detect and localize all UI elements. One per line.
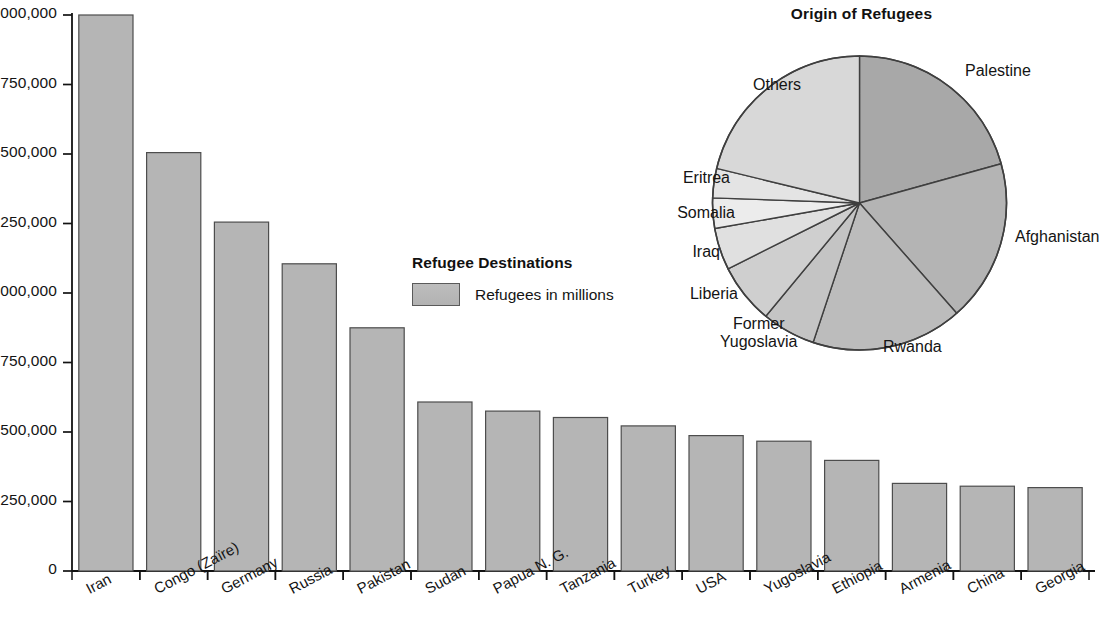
bar: [350, 328, 404, 571]
pie-slice-label: Somalia: [640, 204, 735, 222]
x-axis-category-label: Ethiopia: [829, 557, 885, 597]
pie-slice-label: Palestine: [965, 62, 1031, 80]
pie-slice-label: Others: [753, 76, 801, 94]
bar: [689, 436, 743, 571]
bar: [825, 460, 879, 571]
bar: [214, 222, 268, 571]
y-axis-tick-label: 750,000: [0, 352, 57, 370]
y-axis-tick-label: 250,000: [0, 491, 57, 509]
x-axis-category-label: Turkey: [625, 561, 673, 597]
legend-entry-label: Refugees in millions: [475, 286, 614, 304]
pie-slice-label-line: Yugoslavia: [720, 333, 797, 351]
bar: [757, 441, 811, 571]
pie-slice-label: Liberia: [640, 285, 738, 303]
pie-chart: Origin of Refugees PalestineAfghanistanR…: [640, 0, 1101, 400]
x-axis-category-label: China: [964, 564, 1007, 597]
x-axis-category-label: Yugoslavia: [761, 548, 833, 597]
x-axis-category-label: Iran: [83, 570, 114, 597]
bar: [892, 483, 946, 571]
pie-chart-canvas: [640, 0, 1101, 400]
y-axis-tick-label: 1,250,000: [0, 213, 57, 231]
legend-entry: Refugees in millions: [412, 283, 614, 306]
x-axis-category-label: Russia: [286, 560, 334, 597]
x-axis-category-label: USA: [693, 568, 728, 597]
y-axis-tick-label: 500,000: [0, 421, 57, 439]
legend-title: Refugee Destinations: [412, 254, 614, 272]
pie-slice-label: Rwanda: [883, 338, 942, 356]
bar-chart-legend: Refugee Destinations Refugees in million…: [412, 254, 614, 306]
y-axis-tick-label: 1,500,000: [0, 143, 57, 161]
refugee-figure: 2,000,0001,750,0001,500,0001,250,0001,00…: [0, 0, 1101, 631]
legend-swatch-icon: [412, 283, 460, 306]
x-axis-category-label: Sudan: [422, 562, 468, 597]
bar: [418, 402, 472, 571]
y-axis-tick-label: 1,750,000: [0, 74, 57, 92]
pie-slice-label-line: Former: [720, 315, 797, 333]
pie-slice-label: Eritrea: [640, 169, 730, 187]
y-axis-tick-label: 0: [48, 560, 57, 578]
bar: [486, 411, 540, 571]
x-axis-category-label: Armenia: [896, 556, 953, 597]
pie-slice-label: FormerYugoslavia: [720, 315, 797, 351]
bar: [282, 264, 336, 571]
y-axis-tick-label: 2,000,000: [0, 4, 57, 22]
bar: [79, 15, 133, 571]
y-axis-tick-label: 1,000,000: [0, 282, 57, 300]
x-axis-category-label: Papua N. G.: [490, 543, 571, 597]
bar: [960, 486, 1014, 571]
bar: [621, 426, 675, 571]
pie-slice-label: Afghanistan: [1015, 228, 1100, 246]
x-axis-category-label: Pakistan: [354, 555, 413, 597]
pie-slice-label: Iraq: [640, 243, 720, 261]
bar: [147, 153, 201, 571]
x-axis-category-label: Georgia: [1032, 557, 1087, 597]
